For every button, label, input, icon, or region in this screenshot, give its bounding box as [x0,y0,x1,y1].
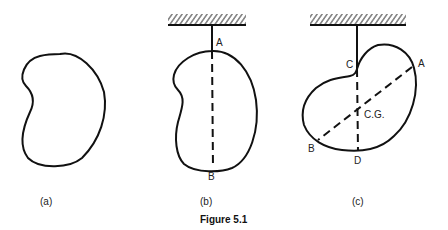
caption-b: (b) [200,196,212,207]
ceiling-hatch-b [168,14,246,24]
line-ab-c [318,67,412,140]
label-b-B: B [208,172,215,182]
panel-b-shape [173,51,256,171]
figure-title: Figure 5.1 [200,214,247,225]
label-c-B: B [308,144,315,154]
label-c-A: A [418,59,425,69]
label-c-CG: C.G. [364,110,385,120]
label-c-C: C [346,60,353,70]
panel-b [168,14,257,171]
panel-a-shape [22,53,105,166]
label-c-D: D [354,156,361,166]
caption-c: (c) [352,196,364,207]
panel-c-shape [303,44,416,150]
ceiling-hatch-c [310,14,406,24]
caption-a: (a) [40,196,52,207]
line-ab [212,51,213,168]
panel-c [303,14,416,151]
label-b-A: A [216,38,223,48]
